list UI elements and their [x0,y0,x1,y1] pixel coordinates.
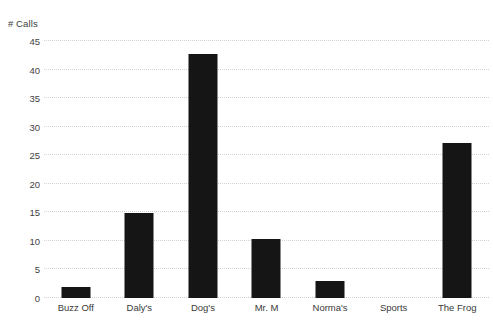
y-axis-title: # Calls [8,18,38,29]
bar-slot [44,41,108,298]
bar[interactable] [125,213,154,298]
x-axis-tick-label: Daly's [127,302,153,313]
bar[interactable] [61,287,90,298]
y-axis-tick-label: 35 [4,93,40,104]
x-axis-tick-labels: Buzz OffDaly'sDog'sMr. MNorma'sSportsThe… [44,302,489,322]
y-axis-tick-label: 10 [4,235,40,246]
y-axis-tick-label: 40 [4,64,40,75]
y-axis-tick-label: 5 [4,264,40,275]
bar-slot [425,41,489,298]
y-axis-tick-labels: 051015202530354045 [0,41,40,298]
x-axis-tick-label: The Frog [438,302,477,313]
bar-slot [171,41,235,298]
y-axis-tick-label: 25 [4,150,40,161]
y-axis-tick-label: 20 [4,178,40,189]
bar[interactable] [188,54,217,298]
bar-chart: # Calls 051015202530354045 Buzz OffDaly'… [0,0,493,327]
plot-area [44,41,489,298]
x-axis-tick-label: Mr. M [255,302,279,313]
bar-slot [235,41,299,298]
y-axis-tick-label: 30 [4,121,40,132]
bar-slot [298,41,362,298]
x-axis-tick-label: Norma's [313,302,348,313]
bar[interactable] [252,239,281,298]
y-axis-tick-label: 45 [4,36,40,47]
bars-layer [44,41,489,298]
y-axis-tick-label: 15 [4,207,40,218]
bar[interactable] [316,281,345,298]
y-axis-tick-label: 0 [4,293,40,304]
bar[interactable] [443,143,472,298]
x-axis-tick-label: Buzz Off [58,302,94,313]
bar-slot [362,41,426,298]
x-axis-tick-label: Sports [380,302,407,313]
bar-slot [108,41,172,298]
x-axis-tick-label: Dog's [191,302,215,313]
